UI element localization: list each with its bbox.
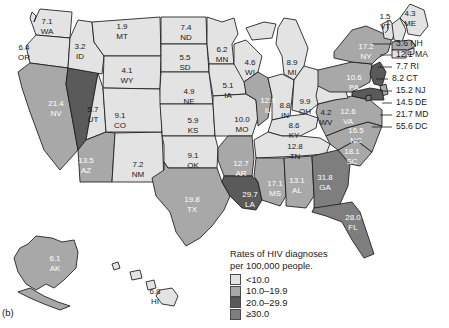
state-abbr-AK: AK [50,264,61,273]
state-value-SC: 18.1 [344,147,360,156]
legend-title-line1: Rates of HIV diagnoses [230,249,405,261]
callout-label-2: 7.7 RI [396,61,419,71]
state-abbr-TX: TX [187,205,198,214]
state-value-HI: 6.8 [149,287,161,296]
state-value-OR: 6.4 [18,43,30,52]
legend-title: Rates of HIV diagnoses per 100,000 peopl… [230,249,405,272]
state-abbr-AZ: AZ [81,166,91,175]
state-abbr-KY: KY [289,131,300,140]
state-value-ID: 3.2 [74,42,86,51]
state-value-UT: 5.7 [87,105,99,114]
state-abbr-CA: CA [18,129,30,138]
state-abbr-NY: NY [360,52,372,61]
state-value-TN: 12.8 [287,142,303,151]
state-value-WA: 7.1 [41,17,53,26]
state-value-NC: 16.5 [348,126,364,135]
state-abbr-TN: TN [290,152,301,161]
legend-swatch-0 [230,274,241,285]
state-DC[interactable] [366,95,371,101]
callout-label-0: 3.6 NH [396,38,423,48]
state-abbr-UT: UT [88,115,99,124]
state-abbr-NE: NE [183,97,194,106]
state-abbr-VT: VT [380,22,390,31]
legend-row-1: 10.0–19.9 [230,286,405,298]
state-value-CO: 9.1 [114,111,126,120]
state-value-ND: 7.4 [180,23,192,32]
state-abbr-PA: PA [349,83,360,92]
state-abbr-GA: GA [319,183,331,192]
state-NJ[interactable] [370,62,386,86]
state-abbr-WI: WI [245,68,255,77]
state-value-WI: 4.6 [244,58,256,67]
state-abbr-ID: ID [76,52,84,61]
state-value-GA: 31.8 [317,173,333,182]
state-abbr-NM: NM [132,170,145,179]
state-abbr-OR: OR [18,53,30,62]
state-PA[interactable] [318,62,372,92]
state-abbr-AL: AL [292,186,302,195]
legend-row-2: 20.0–29.9 [230,297,405,309]
legend-title-line2: per 100,000 people. [230,261,405,273]
state-abbr-IN: IN [281,111,289,120]
state-HI[interactable] [112,262,178,306]
state-value-MO: 10.0 [234,115,250,124]
state-abbr-KS: KS [188,126,199,135]
state-abbr-IA: IA [224,91,232,100]
callout-label-4: 15.2 NJ [396,85,426,95]
state-abbr-MI: MI [288,68,297,77]
state-abbr-CO: CO [114,121,126,130]
state-value-MS: 17.1 [267,179,283,188]
legend-swatch-1 [230,286,241,297]
legend-row-0: <10.0 [230,274,405,286]
callout-label-3: 8.2 CT [392,73,419,83]
state-value-MT: 1.9 [116,22,128,31]
state-abbr-WV: WV [320,118,334,127]
state-AK[interactable] [14,236,78,310]
map-legend: Rates of HIV diagnoses per 100,000 peopl… [230,249,405,320]
state-abbr-OK: OK [187,161,199,170]
state-abbr-ND: ND [180,33,192,42]
legend-swatch-2 [230,297,241,308]
state-abbr-AR: AR [235,169,246,178]
state-abbr-SD: SD [179,63,190,72]
state-abbr-MO: MO [236,125,249,134]
state-abbr-HI: HI [151,297,159,306]
state-abbr-NC: NC [350,136,362,145]
figure-label: (b) [2,307,14,318]
state-value-TX: 19.8 [184,195,200,204]
state-abbr-SC: SC [346,157,357,166]
state-value-ME: 4.3 [404,9,416,18]
state-value-CA: 15.2 [16,119,32,128]
state-CO[interactable] [103,88,162,132]
state-value-KY: 8.6 [288,121,300,130]
legend-label-0: <10.0 [246,275,270,285]
legend-swatch-3 [230,309,241,320]
hiv-rate-choropleth-map: 7.1WA6.4OR15.2CA21.4NV3.2ID1.9MT4.1WY5.7… [0,0,449,328]
state-value-VA: 12.6 [340,107,356,116]
legend-label-1: 10.0–19.9 [246,286,287,296]
state-value-NV: 21.4 [48,99,64,108]
state-value-SD: 5.5 [179,53,191,62]
state-abbr-ME: ME [404,19,416,28]
state-value-PA: 10.6 [346,73,362,82]
callout-label-6: 21.7 MD [396,109,428,119]
callout-label-5: 14.5 DE [396,97,427,107]
state-abbr-MT: MT [116,32,128,41]
callout-label-1: 12.1 MA [396,49,428,59]
state-value-MN: 6.2 [216,45,228,54]
state-value-WV: 4.2 [320,108,332,117]
state-value-FL: 28.0 [345,213,361,222]
state-value-AR: 12.7 [233,159,249,168]
state-value-NY: 17.2 [358,42,374,51]
state-abbr-OH: OH [299,107,311,116]
state-value-WY: 4.1 [121,66,133,75]
state-value-NE: 4.9 [183,87,195,96]
state-value-LA: 29.7 [242,190,258,199]
state-value-MI: 8.9 [286,58,298,67]
callout-label-group: 3.6 NH12.1 MA7.7 RI8.2 CT15.2 NJ14.5 DE2… [392,38,428,131]
legend-rows: <10.010.0–19.920.0–29.9≥30.0 [230,274,405,320]
state-value-AZ: 13.5 [78,156,94,165]
legend-label-3: ≥30.0 [246,309,269,319]
state-abbr-WA: WA [41,27,54,36]
state-abbr-LA: LA [245,200,255,209]
